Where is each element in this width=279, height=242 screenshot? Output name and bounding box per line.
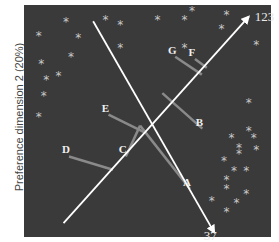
consumer-point: * bbox=[243, 164, 249, 178]
consumer-point: * bbox=[38, 57, 44, 71]
consumer-point: * bbox=[253, 143, 259, 157]
consumer-point: * bbox=[103, 13, 109, 27]
consumer-point: * bbox=[224, 8, 230, 22]
consumer-point: * bbox=[182, 13, 188, 27]
consumer-point: * bbox=[56, 69, 62, 83]
product-label-C: C bbox=[119, 143, 127, 155]
consumer-point: * bbox=[236, 147, 242, 161]
consumer-point: * bbox=[117, 41, 123, 55]
consumer-point: * bbox=[224, 182, 230, 196]
preference-map: 12337***********************************… bbox=[0, 0, 279, 242]
vector-label-37: 37 bbox=[204, 228, 218, 242]
product-label-D: D bbox=[62, 143, 70, 155]
consumer-point: * bbox=[63, 15, 69, 29]
product-label-B: B bbox=[196, 116, 204, 128]
consumer-point: * bbox=[253, 38, 259, 52]
consumer-point: * bbox=[209, 194, 215, 208]
vector-label-123: 123 bbox=[255, 9, 275, 24]
consumer-point: * bbox=[182, 41, 188, 55]
consumer-point: * bbox=[224, 205, 230, 219]
product-label-F: F bbox=[189, 46, 196, 58]
consumer-point: * bbox=[75, 31, 81, 45]
consumer-point: * bbox=[221, 154, 227, 168]
consumer-point: * bbox=[231, 164, 237, 178]
consumer-point: * bbox=[43, 73, 49, 87]
consumer-point: * bbox=[219, 22, 225, 36]
consumer-point: * bbox=[36, 110, 42, 124]
consumer-point: * bbox=[233, 196, 239, 210]
consumer-point: * bbox=[117, 18, 123, 32]
consumer-point: * bbox=[243, 187, 249, 201]
consumer-point: * bbox=[189, 4, 195, 18]
consumer-point: * bbox=[41, 89, 47, 103]
product-label-G: G bbox=[168, 44, 177, 56]
consumer-point: * bbox=[36, 29, 42, 43]
product-label-A: A bbox=[183, 176, 191, 188]
product-label-E: E bbox=[102, 102, 109, 114]
consumer-point: * bbox=[154, 13, 160, 27]
consumer-point: * bbox=[68, 50, 74, 64]
consumer-point: * bbox=[246, 96, 252, 110]
consumer-point: * bbox=[228, 131, 234, 145]
